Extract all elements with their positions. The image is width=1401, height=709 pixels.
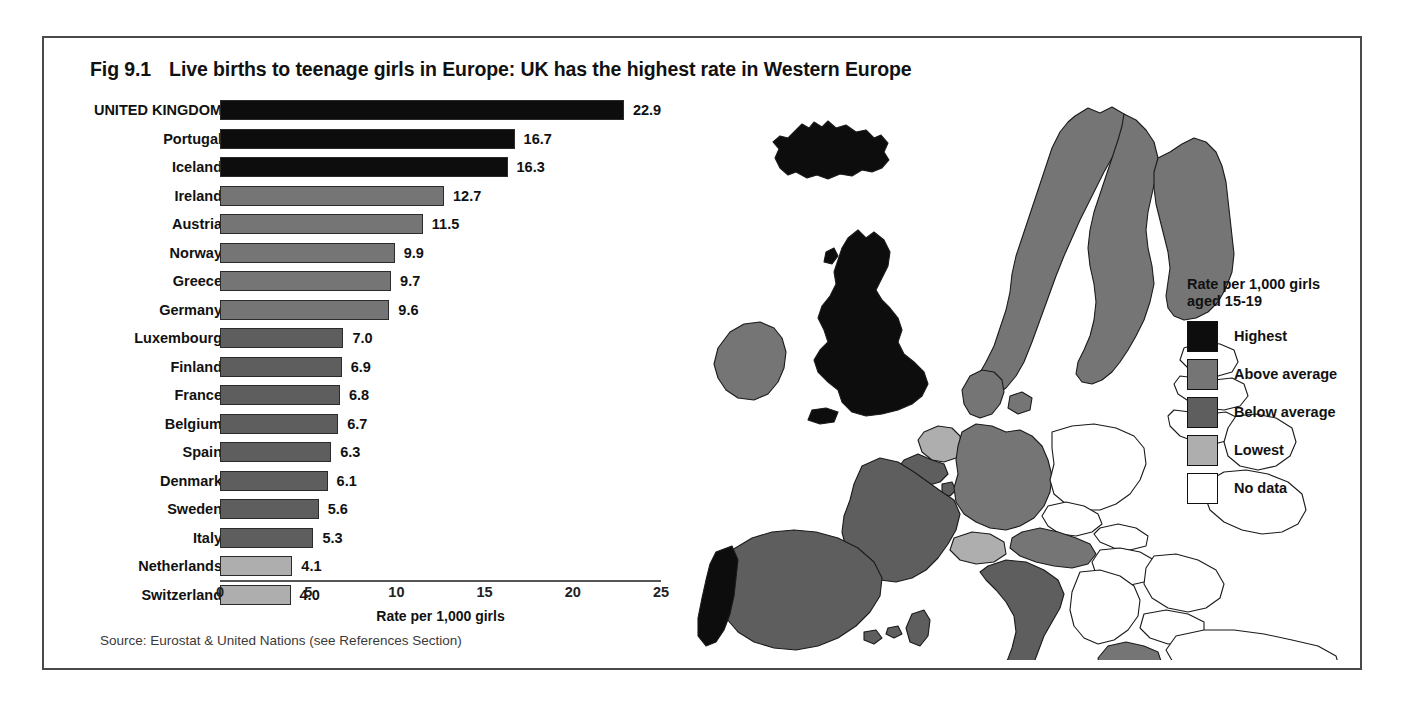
legend-swatch-above-average [1187,359,1218,390]
bar-category-label: Portugal [163,129,222,149]
legend-item: No data [1187,469,1387,507]
map-country-ireland [714,322,786,400]
legend-label: Below average [1234,404,1336,420]
bar-row: Denmark6.1 [44,471,684,491]
legend-item: Lowest [1187,431,1387,469]
legend-swatch-below-average [1187,397,1218,428]
bar-denmark [220,471,328,491]
bar-finland [220,357,342,377]
map-country-italy [980,560,1064,660]
bar-portugal [220,129,515,149]
bar-value-label: 22.9 [633,100,661,120]
map-country-portugal [698,546,738,646]
bar-value-label: 9.9 [404,243,424,263]
map-country-switzerland [950,532,1006,564]
bar-value-label: 12.7 [453,186,481,206]
bar-category-label: Sweden [167,499,222,519]
bar-category-label: Austria [172,214,222,234]
legend-label: No data [1234,480,1287,496]
bar-value-label: 6.1 [337,471,357,491]
bar-row: Germany9.6 [44,300,684,320]
map-country-uk-cornwall [808,408,838,424]
bar-category-label: Denmark [160,471,222,491]
bar-category-label: Greece [173,271,222,291]
bar-italy [220,528,313,548]
bar-switzerland [220,585,291,605]
map-country-romania [1144,554,1224,612]
bar-row: UNITED KINGDOM22.9 [44,100,684,120]
bar-value-label: 9.7 [400,271,420,291]
x-tick-label: 15 [477,584,493,600]
bar-category-label: Germany [159,300,222,320]
bar-category-label: Iceland [172,157,222,177]
map-legend: Rate per 1,000 girls aged 15-19 HighestA… [1187,276,1387,507]
map-country-slovakia [1094,524,1148,550]
figure-title-text: Live births to teenage girls in Europe: … [169,58,911,80]
x-tick-label: 5 [304,584,312,600]
x-axis-line [220,580,661,582]
bar-value-label: 16.3 [517,157,545,177]
legend-item: Above average [1187,355,1387,393]
bar-value-label: 4.1 [301,556,321,576]
legend-item: Highest [1187,317,1387,355]
figure-number: Fig 9.1 [90,58,151,80]
bar-row: France6.8 [44,385,684,405]
legend-item: Below average [1187,393,1387,431]
bar-austria [220,214,423,234]
bar-row: Austria11.5 [44,214,684,234]
map-country-turkey [1166,630,1340,660]
map-country-greece [1098,642,1162,660]
bar-row: Spain6.3 [44,442,684,462]
bar-iceland [220,157,508,177]
bar-row: Luxembourg7.0 [44,328,684,348]
bar-row: Belgium6.7 [44,414,684,434]
bar-germany [220,300,389,320]
figure-title: Fig 9.1Live births to teenage girls in E… [90,58,912,81]
figure-frame: Fig 9.1Live births to teenage girls in E… [42,36,1362,670]
bar-row: Sweden5.6 [44,499,684,519]
bar-france [220,385,340,405]
legend-swatch-highest [1187,321,1218,352]
bar-value-label: 5.3 [322,528,342,548]
bar-value-label: 7.0 [352,328,372,348]
bar-belgium [220,414,338,434]
legend-swatch-no-data [1187,473,1218,504]
bar-value-label: 6.9 [351,357,371,377]
x-tick-label: 20 [565,584,581,600]
bar-row: Portugal16.7 [44,129,684,149]
bar-row: Finland6.9 [44,357,684,377]
legend-title-line2: aged 15-19 [1187,293,1387,310]
bar-luxembourg [220,328,343,348]
legend-label: Highest [1234,328,1287,344]
x-tick-label: 10 [388,584,404,600]
bar-greece [220,271,391,291]
map-country-balearics [864,630,882,644]
map-country-uk-hebrides [824,248,838,264]
source-note: Source: Eurostat & United Nations (see R… [100,633,462,648]
map-country-spain [720,530,882,650]
legend-label: Above average [1234,366,1337,382]
bar-category-label: Spain [183,442,222,462]
bar-row: Ireland12.7 [44,186,684,206]
bar-value-label: 6.8 [349,385,369,405]
bar-row: Netherlands4.1 [44,556,684,576]
x-tick-label: 25 [653,584,669,600]
bar-value-label: 9.6 [398,300,418,320]
bar-category-label: Luxembourg [134,328,222,348]
legend-title-line1: Rate per 1,000 girls [1187,276,1387,293]
bar-value-label: 11.5 [432,214,459,234]
x-tick-label: 0 [216,584,224,600]
legend-title: Rate per 1,000 girls aged 15-19 [1187,276,1387,310]
map-country-poland [1050,424,1146,510]
map-country-germany [954,424,1052,530]
bar-spain [220,442,331,462]
legend-swatch-lowest [1187,435,1218,466]
map-country-denmark [962,370,1004,418]
x-axis-title: Rate per 1,000 girls [220,608,661,624]
bar-value-label: 6.3 [340,442,360,462]
bar-chart: UNITED KINGDOM22.9Portugal16.7Iceland16.… [44,96,684,606]
bar-value-label: 6.7 [347,414,367,434]
bar-category-label: Norway [170,243,222,263]
map-country-iceland [773,121,889,179]
bar-category-label: Italy [193,528,222,548]
